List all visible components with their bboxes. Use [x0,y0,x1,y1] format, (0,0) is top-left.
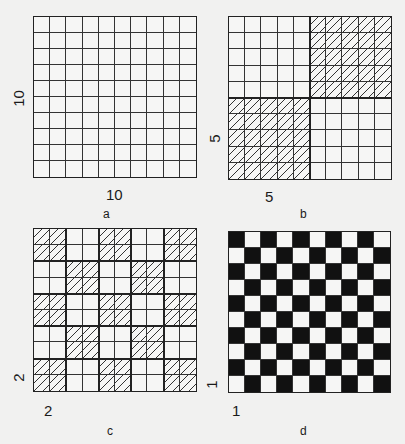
grid-cell [294,147,310,163]
grid-cell [115,278,131,294]
grid-cell [277,312,293,328]
grid-cell [326,33,342,49]
grid-cell [261,163,277,179]
grid-cell [99,294,115,310]
grid-cell [115,294,131,310]
grid-cell [115,145,131,161]
grid-cell [229,130,245,146]
grid-cell [115,33,131,49]
grid-cell [229,296,245,312]
grid-cell [83,81,99,97]
grid-cell [34,229,50,245]
grid-cell [229,328,245,344]
grid-cell [261,17,277,33]
grid-cell [294,130,310,146]
grid-cell [294,98,310,114]
y-label: 5 [206,134,223,142]
grid-cell [326,82,342,98]
grid-cell [293,344,309,360]
grid-cell [147,81,163,97]
grid-cell [50,229,66,245]
grid-cell [310,114,326,130]
grid-cell [115,359,131,375]
grid-block-5 [228,16,392,180]
grid-cell [115,161,131,177]
grid-cell [359,49,375,65]
grid-cell [245,130,261,146]
grid-cell [359,147,375,163]
grid-cell [115,342,131,358]
grid-cell [261,360,277,376]
grid-cell [66,65,82,81]
grid-cell [34,17,50,33]
grid-cell [131,49,147,65]
grid-cell [375,114,391,130]
grid-cell [180,245,196,261]
grid-cell [99,161,115,177]
grid-cell [310,33,326,49]
grid-cell [131,145,147,161]
grid-cell [326,280,342,296]
grid-cell [147,278,163,294]
grid-cell [99,278,115,294]
grid-cell [34,310,50,326]
grid-cell [326,376,342,392]
grid-cell [326,328,342,344]
grid-cell [261,296,277,312]
grid-cell [34,245,50,261]
grid-cell [229,376,245,392]
grid-cell [374,328,390,344]
grid-cell [83,310,99,326]
grid-cell [164,245,180,261]
grid-cell [359,17,375,33]
grid-cell [180,310,196,326]
grid-cell [180,113,196,129]
grid-cell [342,328,358,344]
grid-cell [245,296,261,312]
grid-cell [245,344,261,360]
grid-cell [359,66,375,82]
grid-cell [342,33,358,49]
grid-cell [245,264,261,280]
grid-cell [66,375,82,391]
grid-cell [99,229,115,245]
grid-cell [131,245,147,261]
grid-cell [66,161,82,177]
grid-cell [50,375,66,391]
grid-cell [115,245,131,261]
grid-cell [99,97,115,113]
grid-cell [164,129,180,145]
grid-cell [66,33,82,49]
grid-cell [83,49,99,65]
x-label: 2 [44,402,52,419]
grid-cell [261,344,277,360]
grid-cell [310,66,326,82]
grid-cell [310,130,326,146]
grid-cell [115,17,131,33]
grid-cell [245,49,261,65]
grid-cell [229,264,245,280]
grid-cell [261,280,277,296]
grid-cell [83,359,99,375]
grid-cell [374,296,390,312]
grid-cell [278,130,294,146]
grid-cell [358,264,374,280]
grid-cell [358,232,374,248]
grid-cell [261,147,277,163]
grid-cell [147,326,163,342]
grid-cell [164,17,180,33]
grid-cell [229,312,245,328]
grid-cell [115,129,131,145]
grid-cell [164,229,180,245]
grid-cell [50,145,66,161]
grid-cell [229,248,245,264]
grid-cell [374,376,390,392]
grid-cell [83,261,99,277]
grid-cell [66,278,82,294]
grid-cell [278,82,294,98]
grid-cell [294,66,310,82]
grid-cell [147,342,163,358]
grid-cell [34,49,50,65]
grid-cell [34,65,50,81]
grid-cell [374,280,390,296]
